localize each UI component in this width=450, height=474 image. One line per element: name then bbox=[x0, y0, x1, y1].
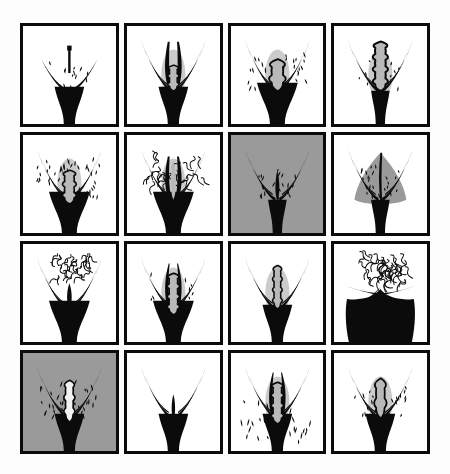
illustration-panel-12 bbox=[331, 241, 430, 345]
illustration-panel-7 bbox=[228, 132, 327, 236]
illustration-panel-10 bbox=[124, 241, 223, 345]
illustration-panel-3 bbox=[228, 23, 327, 127]
illustration-panel-1 bbox=[20, 23, 119, 127]
illustration-panel-13 bbox=[20, 350, 119, 454]
illustration-panel-2 bbox=[124, 23, 223, 127]
illustration-plate bbox=[0, 0, 450, 474]
illustration-panel-8 bbox=[331, 132, 430, 236]
illustration-panel-5 bbox=[20, 132, 119, 236]
illustration-panel-16 bbox=[331, 350, 430, 454]
illustration-panel-4 bbox=[331, 23, 430, 127]
illustration-panel-11 bbox=[228, 241, 327, 345]
illustration-panel-15 bbox=[228, 350, 327, 454]
illustration-panel-9 bbox=[20, 241, 119, 345]
illustration-panel-6 bbox=[124, 132, 223, 236]
illustration-panel-14 bbox=[124, 350, 223, 454]
panel-grid bbox=[20, 23, 430, 454]
